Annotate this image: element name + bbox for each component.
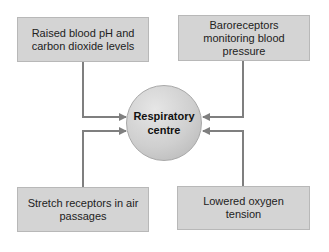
center-label-line2: centre [133, 123, 194, 137]
input-box-lowered-oxygen: Lowered oxygen tension [177, 186, 310, 230]
center-label-line1: Respiratory [133, 109, 194, 123]
input-box-label: Lowered oxygen tension [184, 195, 303, 221]
arrow-bottom-left [83, 131, 126, 187]
input-box-raised-ph-co2: Raised blood pH and carbon dioxide level… [17, 17, 149, 62]
input-box-label: Stretch receptors in air passages [24, 197, 142, 223]
input-box-baroreceptors: Baroreceptors monitoring blood pressure [178, 15, 310, 61]
input-box-label: Raised blood pH and carbon dioxide level… [24, 27, 142, 53]
arrow-top-left [83, 62, 126, 117]
input-box-stretch-receptors: Stretch receptors in air passages [17, 187, 149, 232]
arrow-bottom-right [203, 131, 243, 186]
input-box-label: Baroreceptors monitoring blood pressure [185, 19, 303, 58]
respiratory-centre-node: Respiratory centre [126, 85, 202, 161]
arrow-top-right [203, 61, 243, 117]
